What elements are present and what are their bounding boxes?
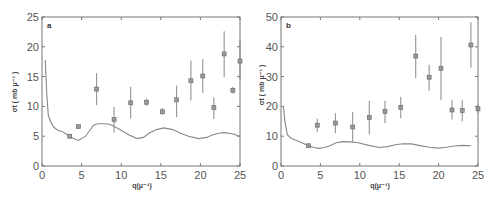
y-tick-label: 20 — [266, 100, 278, 112]
panel-a-frame — [42, 17, 240, 166]
data-point — [129, 87, 133, 119]
square-marker — [175, 98, 179, 102]
square-marker — [460, 109, 464, 113]
panel-a-letter: a — [47, 21, 52, 30]
data-point — [212, 97, 216, 118]
square-marker — [399, 105, 403, 109]
x-tick-label: 20 — [194, 169, 206, 181]
data-point — [175, 86, 179, 118]
square-marker — [189, 79, 193, 83]
x-tick-label: 25 — [472, 169, 484, 181]
y-tick-label: 40 — [266, 41, 278, 53]
data-point — [231, 87, 235, 94]
x-tick-label: 5 — [317, 169, 323, 181]
data-point — [160, 108, 164, 115]
data-point — [189, 61, 193, 101]
square-marker — [307, 144, 311, 148]
panel-b-letter: b — [286, 21, 291, 30]
square-marker — [439, 66, 443, 70]
x-tick-label: 20 — [432, 169, 444, 181]
panel-a-ticks: 05101520250510152025 — [27, 11, 246, 181]
theory-line — [283, 106, 471, 148]
y-tick-label: 0 — [33, 160, 39, 172]
y-tick-label: 5 — [33, 130, 39, 142]
x-tick-label: 15 — [155, 169, 167, 181]
data-point — [439, 37, 443, 100]
panel-a-x-axis-label: q(μ⁻¹) — [132, 182, 152, 190]
panel-a-data-points — [68, 31, 242, 138]
square-marker — [414, 54, 418, 58]
data-point — [315, 119, 319, 132]
data-point — [68, 134, 72, 138]
square-marker — [231, 88, 235, 92]
data-point — [238, 40, 242, 79]
y-tick-label: 0 — [272, 160, 278, 172]
square-marker — [160, 110, 164, 114]
square-marker — [212, 106, 216, 110]
y-tick-label: 20 — [27, 41, 39, 53]
data-point — [95, 73, 99, 105]
y-tick-label: 30 — [266, 71, 278, 83]
panel-b-data-points — [307, 22, 480, 147]
data-point — [145, 99, 149, 106]
square-marker — [367, 115, 371, 119]
data-point — [427, 65, 431, 91]
x-tick-label: 5 — [79, 169, 85, 181]
square-marker — [112, 118, 116, 122]
square-marker — [145, 100, 149, 104]
square-marker — [222, 52, 226, 56]
square-marker — [450, 108, 454, 112]
data-point — [399, 97, 403, 118]
x-tick-label: 0 — [39, 169, 45, 181]
panel-a: 05101520250510152025 a q(μ⁻¹) σt ( mb μ⁻… — [11, 11, 246, 190]
x-tick-label: 10 — [115, 169, 127, 181]
data-point — [367, 101, 371, 135]
data-point — [351, 112, 355, 142]
data-point — [112, 107, 116, 133]
data-point — [450, 100, 454, 119]
square-marker — [476, 107, 480, 111]
square-marker — [238, 59, 242, 63]
data-point — [469, 22, 473, 67]
x-tick-label: 15 — [393, 169, 405, 181]
square-marker — [95, 87, 99, 91]
square-marker — [129, 101, 133, 105]
square-marker — [383, 109, 387, 113]
y-tick-label: 10 — [266, 130, 278, 142]
panel-b: 051015202501020304050 b q(μ⁻¹) σt ( mb μ… — [258, 11, 484, 190]
data-point — [414, 35, 418, 78]
panel-b-y-axis-label: σt ( mb μ⁻¹ ) — [258, 65, 266, 106]
data-point — [383, 101, 387, 123]
panel-b-theory-curve — [283, 106, 471, 148]
y-tick-label: 10 — [27, 100, 39, 112]
x-tick-label: 10 — [354, 169, 366, 181]
data-point — [222, 31, 226, 77]
data-point — [333, 113, 337, 133]
panel-b-x-axis-label: q(μ⁻¹) — [370, 182, 390, 190]
square-marker — [351, 125, 355, 129]
figure: 05101520250510152025 a q(μ⁻¹) σt ( mb μ⁻… — [0, 0, 491, 201]
theory-line — [45, 60, 240, 140]
square-marker — [68, 134, 72, 138]
square-marker — [469, 43, 473, 47]
x-tick-label: 0 — [278, 169, 284, 181]
square-marker — [315, 123, 319, 127]
y-tick-label: 50 — [266, 11, 278, 23]
y-tick-label: 25 — [27, 11, 39, 23]
data-point — [76, 125, 80, 129]
data-point — [201, 59, 205, 92]
x-tick-label: 25 — [234, 169, 246, 181]
square-marker — [427, 75, 431, 79]
square-marker — [201, 74, 205, 78]
panel-b-ticks: 051015202501020304050 — [266, 11, 484, 181]
panel-a-theory-curve — [45, 60, 240, 140]
data-point — [307, 144, 311, 148]
square-marker — [76, 125, 80, 129]
square-marker — [333, 121, 337, 125]
panel-a-y-axis-label: σt ( mb μ⁻¹ ) — [11, 72, 19, 113]
data-point — [460, 100, 464, 121]
y-tick-label: 15 — [27, 71, 39, 83]
